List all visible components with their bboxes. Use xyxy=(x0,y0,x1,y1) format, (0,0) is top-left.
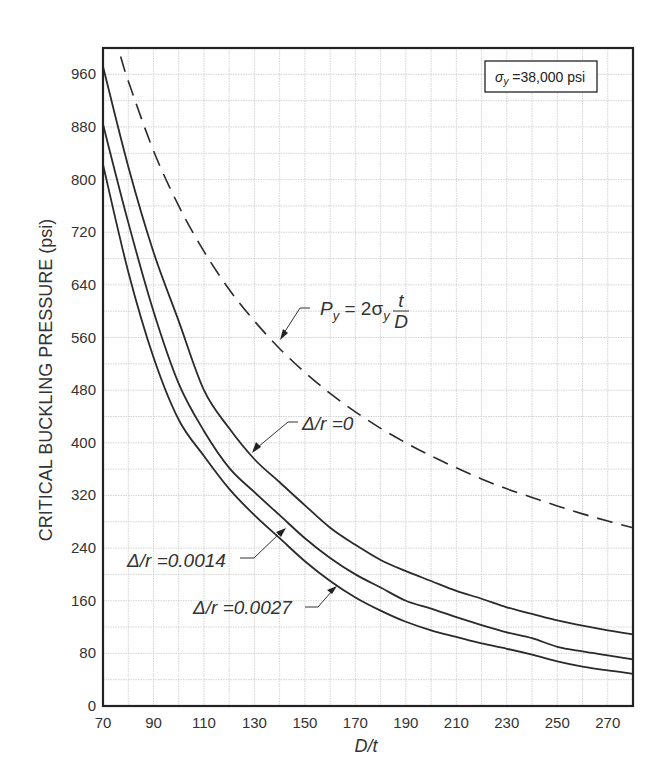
py-fraction-numerator: t xyxy=(398,290,404,311)
y-tick-label: 560 xyxy=(71,329,96,346)
y-tick-label: 720 xyxy=(71,223,96,240)
plot-frame xyxy=(103,48,633,706)
y-tick-label: 800 xyxy=(71,171,96,188)
py-eq: = 2σ xyxy=(339,298,383,319)
y-tick-label: 320 xyxy=(71,486,96,503)
x-tick-label: 110 xyxy=(192,714,216,731)
y-tick-label: 400 xyxy=(71,434,96,451)
x-tick-labels: 7090110130150170190210230250270 xyxy=(95,714,621,731)
x-tick-label: 230 xyxy=(494,714,519,731)
annotation-dr0014: Δ/r =0.0014 xyxy=(126,528,286,571)
grid-lines xyxy=(103,48,633,706)
py-fraction-denominator: D xyxy=(394,311,408,332)
x-tick-label: 190 xyxy=(393,714,418,731)
py-sub2: y xyxy=(382,308,391,323)
x-tick-label: 210 xyxy=(444,714,469,731)
y-tick-label: 240 xyxy=(71,539,96,556)
x-tick-label: 150 xyxy=(292,714,317,731)
svg-text:σy =38,000 psi: σy =38,000 psi xyxy=(495,69,585,87)
y-tick-label: 80 xyxy=(79,644,96,661)
yield-strength-box: σy =38,000 psi xyxy=(485,61,597,92)
label-dr0027: Δ/r =0.0027 xyxy=(192,597,293,618)
x-tick-label: 130 xyxy=(242,714,267,731)
x-tick-label: 90 xyxy=(145,714,162,731)
py-symbol: P xyxy=(320,298,333,319)
data-series xyxy=(103,57,633,674)
label-dr0014: Δ/r =0.0014 xyxy=(126,550,226,571)
x-tick-label: 270 xyxy=(595,714,620,731)
series-line-2 xyxy=(103,164,633,673)
series-line-1 xyxy=(103,124,633,659)
y-tick-labels: 080160240320400480560640720800880960 xyxy=(71,65,96,714)
x-axis-title: D/t xyxy=(354,736,378,756)
x-tick-label: 170 xyxy=(343,714,368,731)
annotation-py: Py = 2σy t D xyxy=(280,290,409,340)
y-tick-label: 640 xyxy=(71,276,96,293)
y-tick-label: 960 xyxy=(71,65,96,82)
y-axis-title: CRITICAL BUCKLING PRESSURE (psi) xyxy=(36,219,56,541)
y-tick-label: 480 xyxy=(71,381,96,398)
buckling-pressure-chart: 7090110130150170190210230250270 08016024… xyxy=(0,0,670,781)
y-tick-label: 0 xyxy=(88,697,96,714)
label-dr0: Δ/r =0 xyxy=(301,413,354,434)
legend-value: =38,000 psi xyxy=(508,69,585,85)
y-tick-label: 160 xyxy=(71,592,96,609)
y-tick-label: 880 xyxy=(71,118,96,135)
annotation-dr0027: Δ/r =0.0027 xyxy=(192,586,337,618)
annotation-dr0: Δ/r =0 xyxy=(252,413,354,453)
x-tick-label: 250 xyxy=(545,714,570,731)
x-tick-label: 70 xyxy=(95,714,112,731)
